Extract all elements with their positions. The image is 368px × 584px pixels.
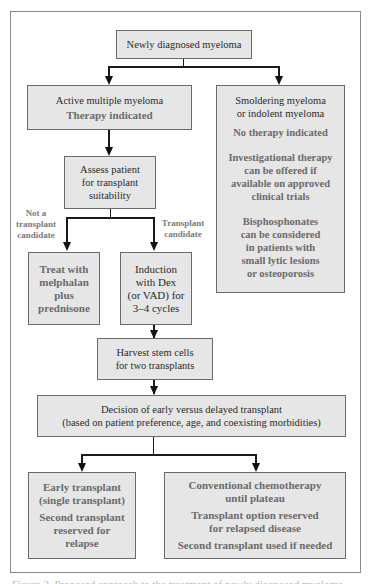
node-title-line: Smoldering myeloma [235,94,326,107]
node-text-line: Harvest stem cells [117,346,194,359]
node-text-line: Assess patient [80,163,140,176]
node-assess-patient: Assess patient for transplant suitabilit… [64,156,156,209]
node-text-line: (or VAD) for [127,289,184,302]
connector [108,130,110,148]
connector [66,217,155,219]
connector [108,66,280,68]
connector [153,437,154,455]
node-note-line: in patients with [246,241,315,254]
label-line: candidate [158,229,208,240]
node-text-line: for two transplants [116,359,195,372]
node-text-line: (based on patient preference, age, and c… [62,416,321,429]
node-text-line: until plateau [225,492,285,505]
node-text-line: Second transplant used if needed [178,539,333,552]
node-early-transplant: Early transplant (single transplant) Sec… [28,472,136,559]
node-text-line: with Dex [136,276,177,289]
arrow-down-icon [150,386,158,395]
node-text-line: 3–4 cycles [133,302,180,315]
node-harvest-stem-cells: Harvest stem cells for two transplants [97,338,213,380]
node-smoldering-myeloma: Smoldering myeloma or indolent myeloma N… [216,85,345,293]
node-induction: Induction with Dex (or VAD) for 3–4 cycl… [120,252,192,325]
node-note-line: No therapy indicated [233,126,328,139]
node-newly-diagnosed: Newly diagnosed myeloma [116,30,252,59]
edge-label-transplant-candidate: Transplant candidate [158,218,208,240]
node-subtitle: Therapy indicated [66,109,152,122]
arrow-down-icon [275,76,283,85]
connector [66,217,68,244]
node-note-line: small lytic lesions [241,254,319,267]
node-note-line: Second transplant [39,511,124,524]
edge-label-not-candidate: Not a transplant candidate [10,208,62,241]
node-text-line: plus [54,289,74,302]
node-text-line: prednisone [38,302,90,315]
label-line: Transplant [158,218,208,229]
node-decision: Decision of early versus delayed transpl… [37,395,346,437]
node-note-line: Investigational therapy [228,151,332,164]
label-line: Not a [10,208,62,219]
node-note-line: available on approved [231,177,330,190]
connector [110,209,111,217]
arrow-down-icon [252,463,260,472]
arrow-down-icon [105,76,113,85]
node-note-line: can be considered [241,228,321,241]
node-active-myeloma: Active multiple myeloma Therapy indicate… [27,85,192,130]
node-text-line: melphalan [39,276,89,289]
node-melphalan-prednisone: Treat with melphalan plus prednisone [28,252,100,325]
node-title-line: Early transplant [43,481,121,494]
node-note-line: reserved for [54,524,111,537]
node-note-line: clinical trials [251,190,309,203]
node-text-line: Transplant option reserved [191,509,318,522]
arrow-down-icon [150,242,158,251]
node-title-line: (single transplant) [39,494,125,507]
node-note-line: Bisphosphonates [243,215,318,228]
node-note-line: can be offered if [244,164,316,177]
arrow-down-icon [63,242,71,251]
connector [81,454,257,456]
node-title: Active multiple myeloma [56,94,163,107]
node-text-line: suitability [89,189,131,202]
node-note-line: relapse [65,537,98,550]
node-note-line: or osteoporosis [247,267,314,280]
node-conventional-chemotherapy: Conventional chemotherapy until plateau … [164,472,346,559]
arrow-down-icon [78,463,86,472]
node-text-line: Induction [135,263,177,276]
node-text-line: for transplant [82,176,138,189]
node-text: Newly diagnosed myeloma [127,38,242,51]
node-text-line: Treat with [40,263,89,276]
label-line: candidate [10,230,62,241]
arrow-down-icon [105,147,113,156]
label-line: transplant [10,219,62,230]
node-title-line: or indolent myeloma [237,107,324,120]
node-text-line: Decision of early versus delayed transpl… [101,403,282,416]
node-text-line: Conventional chemotherapy [189,479,322,492]
node-text-line: for relapsed disease [209,522,301,535]
connector [153,217,155,244]
figure-caption: Figure 2. Proposed approach to the treat… [12,577,368,584]
